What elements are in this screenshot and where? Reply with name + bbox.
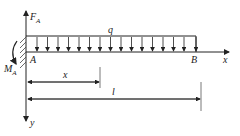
- force-a-label: FA: [30, 12, 40, 25]
- point-a-label: A: [30, 55, 36, 65]
- wall-hatch: [20, 37, 26, 68]
- dimension-l-label: l: [112, 87, 115, 97]
- dimension-x-label: x: [63, 70, 67, 80]
- axis-y-label: y: [30, 118, 34, 128]
- point-b-label: B: [191, 55, 197, 65]
- load-q-label: q: [108, 25, 113, 35]
- distributed-load: [26, 36, 196, 52]
- moment-arc: [13, 41, 17, 64]
- load-arrows: [37, 37, 196, 51]
- cantilever-beam-diagram: FA MA q A B x y x l: [0, 0, 240, 136]
- moment-a-label: MA: [4, 64, 17, 77]
- axis-x-label: x: [223, 55, 227, 65]
